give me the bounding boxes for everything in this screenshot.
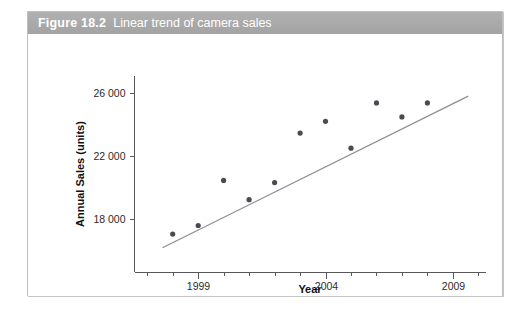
trend-line-group xyxy=(163,96,469,248)
data-point xyxy=(221,178,226,183)
figure-number-label: Figure 18.2 xyxy=(38,16,106,30)
x-axis-tick-labels: 199920042009 xyxy=(187,280,466,292)
y-axis-tick-label: 26 000 xyxy=(93,87,125,99)
data-points-group xyxy=(170,100,430,236)
y-axis-tick-label: 18 000 xyxy=(93,213,125,225)
x-axis-ticks xyxy=(148,273,479,280)
x-axis-tick-label: 2009 xyxy=(442,280,466,292)
data-point xyxy=(399,114,404,119)
data-point xyxy=(425,100,430,105)
chart-plot-area: 18 00022 00026 000 199920042009 Year Ann… xyxy=(28,34,502,296)
data-point xyxy=(196,223,201,228)
scatter-chart-svg: 18 00022 00026 000 199920042009 Year Ann… xyxy=(28,34,504,296)
figure-card: Figure 18.2 Linear trend of camera sales… xyxy=(27,11,503,296)
data-point xyxy=(298,131,303,136)
y-axis-tick-labels: 18 00022 00026 000 xyxy=(93,87,125,225)
data-point xyxy=(247,197,252,202)
trend-line xyxy=(163,96,469,248)
figure-caption-text: Linear trend of camera sales xyxy=(113,16,271,30)
y-axis-tick-label: 22 000 xyxy=(93,150,125,162)
data-point xyxy=(348,146,353,151)
x-axis-title: Year xyxy=(298,283,322,295)
data-point xyxy=(323,119,328,124)
x-axis-tick-label: 1999 xyxy=(187,280,211,292)
y-axis-ticks xyxy=(130,94,135,220)
data-point xyxy=(272,180,277,185)
data-point xyxy=(170,232,175,237)
figure-caption-bar: Figure 18.2 Linear trend of camera sales xyxy=(28,12,502,34)
y-axis-title: Annual Sales (units) xyxy=(74,121,86,227)
data-point xyxy=(374,100,379,105)
